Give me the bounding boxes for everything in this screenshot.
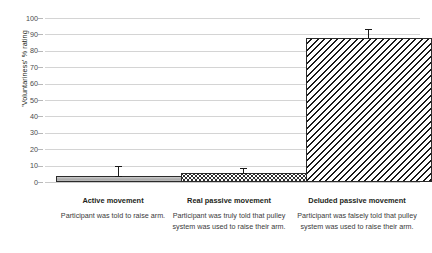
bar-deluded-passive-movement — [306, 38, 432, 182]
ytick-dash-80 — [38, 51, 43, 52]
ytick-dash-70 — [38, 67, 43, 68]
bar-active-movement — [56, 176, 182, 182]
bar-real-passive-movement — [181, 173, 307, 182]
errorbar-cap-bottom-active-movement — [115, 176, 122, 177]
errorbar-cap-top-deluded-passive-movement — [365, 29, 372, 30]
ytick-label-70: 70 — [8, 64, 38, 71]
ytick-label-30: 30 — [8, 129, 38, 136]
errorbar-deluded-passive-movement — [368, 30, 369, 38]
ytick-dash-90 — [38, 34, 43, 35]
bar-chart-figure: 'Voluntariness' % rating 100 90 80 70 60… — [0, 0, 432, 253]
category-label-real-passive-movement: Real passive movement — [166, 196, 292, 205]
ytick-dash-40 — [38, 116, 43, 117]
ytick-dash-20 — [38, 149, 43, 150]
ytick-dash-60 — [38, 84, 43, 85]
ytick-label-60: 60 — [8, 80, 38, 87]
gridline-100 — [45, 18, 420, 19]
ytick-label-10: 10 — [8, 162, 38, 169]
category-description-real-passive-movement: Participant was truly told that pulley s… — [166, 211, 292, 232]
gridline-0 — [45, 182, 420, 183]
ytick-label-20: 20 — [8, 146, 38, 153]
gridline-90 — [45, 34, 420, 35]
errorbar-cap-top-real-passive-movement — [240, 168, 247, 169]
ytick-label-100: 100 — [8, 15, 38, 22]
category-group-real-passive-movement: Real passive movement Participant was tr… — [166, 196, 292, 232]
ytick-label-40: 40 — [8, 113, 38, 120]
ytick-dash-30 — [38, 133, 43, 134]
ytick-label-80: 80 — [8, 47, 38, 54]
ytick-dash-10 — [38, 166, 43, 167]
plot-area: 100 90 80 70 60 50 40 30 20 10 0 — [45, 18, 420, 182]
ytick-dash-0 — [38, 182, 43, 183]
category-group-deluded-passive-movement: Deluded passive movement Participant was… — [292, 196, 422, 232]
ytick-label-0: 0 — [8, 179, 38, 186]
ytick-dash-50 — [38, 100, 43, 101]
category-label-deluded-passive-movement: Deluded passive movement — [292, 196, 422, 205]
ytick-label-50: 50 — [8, 97, 38, 104]
errorbar-cap-bottom-real-passive-movement — [240, 173, 247, 174]
ytick-dash-100 — [38, 18, 43, 19]
category-description-deluded-passive-movement: Participant was falsely told that pulley… — [292, 211, 422, 232]
ytick-label-90: 90 — [8, 31, 38, 38]
errorbar-cap-top-active-movement — [115, 166, 122, 167]
